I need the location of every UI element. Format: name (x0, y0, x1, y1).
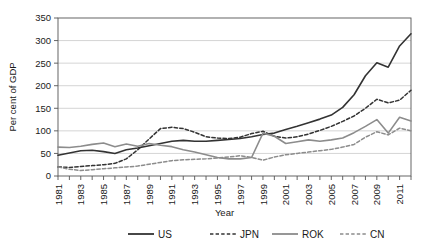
y-axis-tick-label: 250 (35, 58, 51, 69)
chart-figure: 050100150200250300350 198119831985198719… (0, 0, 427, 251)
line-chart: 050100150200250300350 198119831985198719… (0, 0, 427, 251)
chart-background (0, 0, 427, 251)
x-axis-tick-label: 2009 (371, 184, 382, 205)
x-axis-tick-label: 1991 (166, 184, 177, 205)
legend-label-us: US (158, 229, 172, 240)
x-axis-tick-label: 1985 (98, 184, 109, 205)
x-axis-tick-label: 1999 (258, 184, 269, 205)
legend-label-jpn: JPN (240, 229, 259, 240)
y-axis-tick-label: 200 (35, 80, 51, 91)
y-axis-tick-label: 0 (46, 170, 51, 181)
x-axis-tick-label: 1997 (235, 184, 246, 205)
x-axis-tick-label: 2001 (280, 184, 291, 205)
legend-label-cn: CN (370, 229, 384, 240)
x-axis-tick-label: 2011 (394, 184, 405, 204)
x-axis-tick-label: 1983 (75, 184, 86, 205)
x-axis-title: Year (215, 207, 234, 218)
y-axis-tick-label: 100 (35, 125, 51, 136)
x-axis-tick-label: 2007 (349, 184, 360, 205)
y-axis-tick-label: 150 (35, 103, 51, 114)
x-axis-tick-label: 1993 (189, 184, 200, 205)
x-axis-tick-label: 1989 (144, 184, 155, 205)
x-axis-tick-label: 2005 (326, 184, 337, 205)
x-axis-tick-label: 1995 (212, 184, 223, 205)
legend-label-rok: ROK (302, 229, 324, 240)
y-axis-title: Per cent of GDP (7, 62, 18, 131)
x-axis-tick-label: 1981 (53, 184, 64, 205)
y-axis-tick-label: 300 (35, 35, 51, 46)
x-axis-tick-label: 1987 (121, 184, 132, 205)
y-axis-tick-label: 50 (40, 148, 51, 159)
x-axis-tick-label: 2003 (303, 184, 314, 205)
y-axis-tick-label: 350 (35, 12, 51, 23)
